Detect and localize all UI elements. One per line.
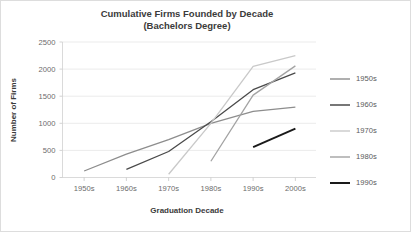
chart-border [1,1,411,232]
x-tick-marks [84,178,295,182]
chart-figure: Cumulative Firms Founded by Decade (Bach… [0,0,411,232]
x-tick-label: 2000s [285,184,306,193]
y-tick-label: 1000 [39,119,56,128]
gridlines [63,42,317,150]
y-tick-label: 0 [51,173,55,182]
y-tick-label: 2500 [39,38,56,47]
y-tick-label: 1500 [39,92,56,101]
x-axis-title: Graduation Decade [150,206,224,215]
legend-label-1980s: 1980s [356,152,377,161]
y-axis-title: Number of Firms [9,77,18,142]
chart-title: Cumulative Firms Founded by Decade [101,8,274,19]
x-tick-label: 1960s [116,184,137,193]
legend-label-1970s: 1970s [356,126,377,135]
y-tick-labels: 05001000150020002500 [39,38,56,183]
x-tick-label: 1980s [201,184,222,193]
x-tick-labels: 1950s1960s1970s1980s1990s2000s [74,184,306,193]
x-tick-label: 1950s [74,184,95,193]
series-lines [84,56,295,175]
y-tick-label: 2000 [39,65,56,74]
series-line-1950s [84,107,295,171]
y-tick-marks [60,42,63,178]
x-tick-label: 1970s [158,184,179,193]
line-chart: Cumulative Firms Founded by Decade (Bach… [0,0,411,232]
legend-label-1950s: 1950s [356,74,377,83]
x-tick-label: 1990s [243,184,264,193]
legend-label-1960s: 1960s [356,100,377,109]
series-line-1970s [169,56,296,175]
series-line-1960s [126,73,295,169]
legend-label-1990s: 1990s [356,178,377,187]
chart-legend: 1950s1960s1970s1980s1990s [330,74,377,187]
chart-subtitle: (Bachelors Degree) [143,20,230,31]
y-tick-label: 500 [43,146,56,155]
series-line-1990s [253,129,295,147]
